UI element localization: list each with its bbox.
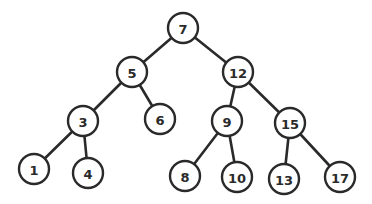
tree-node-1: 1 [19,154,49,184]
binary-tree-diagram: 751236915148101317 [0,0,372,204]
node-label: 3 [78,115,87,130]
tree-node-13: 13 [269,164,299,194]
tree-node-5: 5 [117,57,147,87]
node-label: 10 [228,171,246,186]
node-label: 6 [155,113,164,128]
tree-nodes: 751236915148101317 [19,13,355,194]
node-label: 17 [331,171,349,186]
tree-node-7: 7 [168,13,198,43]
tree-node-15: 15 [275,108,305,138]
node-label: 7 [178,22,187,37]
tree-node-12: 12 [223,57,253,87]
node-label: 5 [127,66,136,81]
tree-node-4: 4 [73,158,103,188]
tree-node-3: 3 [68,106,98,136]
node-label: 4 [83,167,92,182]
node-label: 9 [222,115,231,130]
node-label: 12 [229,66,247,81]
tree-node-10: 10 [222,162,252,192]
tree-edges [34,28,340,179]
tree-node-8: 8 [170,161,200,191]
tree-node-6: 6 [145,104,175,134]
node-label: 8 [180,170,189,185]
node-label: 13 [275,173,293,188]
tree-node-9: 9 [212,106,242,136]
tree-node-17: 17 [325,162,355,192]
node-label: 15 [281,117,299,132]
node-label: 1 [29,163,38,178]
